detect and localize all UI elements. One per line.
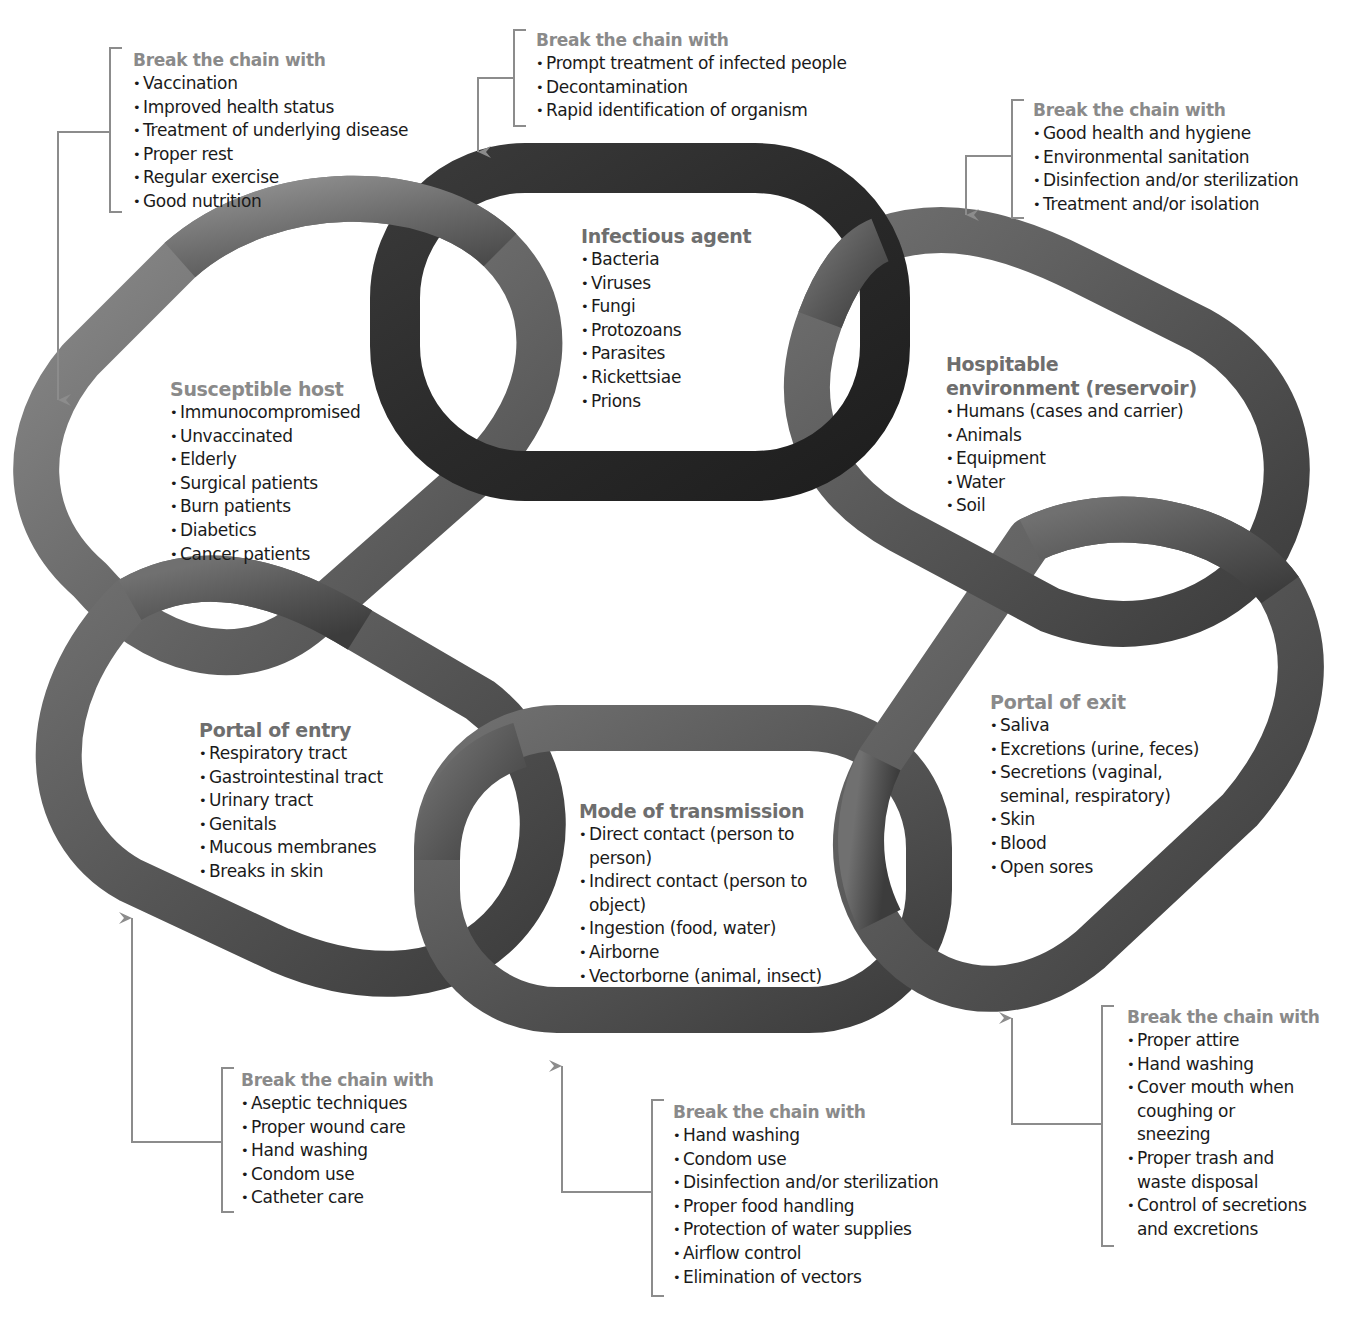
list-item: Good health and hygiene — [1033, 122, 1299, 146]
bracket-susceptible-host — [110, 48, 122, 212]
portal-of-exit-block: Portal of exit Saliva Excretions (urine,… — [990, 690, 1199, 879]
break-list: Prompt treatment of infected people Deco… — [536, 52, 847, 123]
list-item: Direct contact (person to — [579, 823, 822, 847]
portal-of-exit-title: Portal of exit — [990, 690, 1199, 714]
break-title: Break the chain with — [1033, 98, 1299, 122]
list-item: Ingestion (food, water) — [579, 917, 822, 941]
list-item: Protection of water supplies — [673, 1218, 939, 1242]
list-item: Proper wound care — [241, 1116, 434, 1140]
mode-of-transmission-list: Direct contact (person to person) Indire… — [579, 823, 822, 988]
list-item: Open sores — [990, 856, 1199, 880]
list-item: Equipment — [946, 447, 1197, 471]
break-portal-of-exit-callout: Break the chain with Proper attire Hand … — [1127, 1005, 1320, 1241]
break-mode-of-transmission-callout: Break the chain with Hand washing Condom… — [673, 1100, 939, 1289]
list-item: Parasites — [581, 342, 751, 366]
list-item: Airflow control — [673, 1242, 939, 1266]
list-item: Proper rest — [133, 143, 408, 167]
break-list: Proper attire Hand washing Cover mouth w… — [1127, 1029, 1320, 1241]
list-item: Secretions (vaginal, — [990, 761, 1199, 785]
list-item: Animals — [946, 424, 1197, 448]
infectious-agent-block: Infectious agent Bacteria Viruses Fungi … — [581, 224, 751, 413]
list-item: Viruses — [581, 272, 751, 296]
list-item: Proper food handling — [673, 1195, 939, 1219]
break-portal-of-entry-callout: Break the chain with Aseptic techniques … — [241, 1068, 434, 1210]
break-title: Break the chain with — [241, 1068, 434, 1092]
arrow-portal-of-exit — [1012, 1018, 1102, 1124]
portal-of-exit-list: Saliva Excretions (urine, feces) Secreti… — [990, 714, 1199, 879]
arrow-reservoir — [966, 156, 1012, 215]
list-item: Treatment and/or isolation — [1033, 193, 1299, 217]
list-item-continuation: seminal, respiratory) — [990, 785, 1199, 809]
list-item: Regular exercise — [133, 166, 408, 190]
portal-of-entry-block: Portal of entry Respiratory tract Gastro… — [199, 718, 383, 884]
list-item: Skin — [990, 808, 1199, 832]
break-infectious-agent-callout: Break the chain with Prompt treatment of… — [536, 28, 847, 123]
list-item: Elderly — [170, 448, 361, 472]
break-title: Break the chain with — [133, 48, 408, 72]
reservoir-title-line2: environment (reservoir) — [946, 376, 1197, 400]
list-item: Hand washing — [1127, 1053, 1320, 1077]
list-item: Cover mouth when — [1127, 1076, 1320, 1100]
break-title: Break the chain with — [536, 28, 847, 52]
list-item: Treatment of underlying disease — [133, 119, 408, 143]
list-item: Immunocompromised — [170, 401, 361, 425]
list-item: Urinary tract — [199, 789, 383, 813]
list-item: Cancer patients — [170, 543, 361, 567]
list-item-continuation: object) — [579, 894, 822, 918]
list-item: Burn patients — [170, 495, 361, 519]
list-item: Airborne — [579, 941, 822, 965]
bracket-reservoir — [1012, 100, 1024, 218]
arrow-infectious-agent — [478, 78, 514, 152]
list-item: Humans (cases and carrier) — [946, 400, 1197, 424]
susceptible-host-list: Immunocompromised Unvaccinated Elderly S… — [170, 401, 361, 566]
list-item: Fungi — [581, 295, 751, 319]
mode-of-transmission-title: Mode of transmission — [579, 799, 822, 823]
list-item: Proper trash and — [1127, 1147, 1320, 1171]
break-title: Break the chain with — [673, 1100, 939, 1124]
list-item: Breaks in skin — [199, 860, 383, 884]
list-item: Protozoans — [581, 319, 751, 343]
list-item: Bacteria — [581, 248, 751, 272]
arrow-portal-of-entry — [132, 918, 222, 1142]
list-item: Saliva — [990, 714, 1199, 738]
reservoir-list: Humans (cases and carrier) Animals Equip… — [946, 400, 1197, 518]
portal-of-entry-list: Respiratory tract Gastrointestinal tract… — [199, 742, 383, 884]
break-reservoir-callout: Break the chain with Good health and hyg… — [1033, 98, 1299, 216]
list-item: Disinfection and/or sterilization — [673, 1171, 939, 1195]
list-item: Decontamination — [536, 76, 847, 100]
bracket-infectious-agent — [514, 30, 526, 126]
infectious-agent-title: Infectious agent — [581, 224, 751, 248]
portal-of-entry-title: Portal of entry — [199, 718, 383, 742]
list-item: Environmental sanitation — [1033, 146, 1299, 170]
list-item: Excretions (urine, feces) — [990, 738, 1199, 762]
bracket-portal-of-entry — [222, 1068, 234, 1212]
arrow-mode-of-transmission — [562, 1066, 652, 1192]
list-item: Water — [946, 471, 1197, 495]
list-item-continuation: waste disposal — [1127, 1171, 1320, 1195]
list-item: Proper attire — [1127, 1029, 1320, 1053]
list-item-continuation: coughing or — [1127, 1100, 1320, 1124]
list-item: Disinfection and/or sterilization — [1033, 169, 1299, 193]
reservoir-block: Hospitable environment (reservoir) Human… — [946, 352, 1197, 518]
list-item: Gastrointestinal tract — [199, 766, 383, 790]
break-susceptible-host-callout: Break the chain with Vaccination Improve… — [133, 48, 408, 214]
list-item: Genitals — [199, 813, 383, 837]
list-item: Indirect contact (person to — [579, 870, 822, 894]
list-item: Good nutrition — [133, 190, 408, 214]
list-item: Unvaccinated — [170, 425, 361, 449]
list-item-continuation: person) — [579, 847, 822, 871]
list-item: Condom use — [241, 1163, 434, 1187]
break-list: Vaccination Improved health status Treat… — [133, 72, 408, 214]
mode-of-transmission-block: Mode of transmission Direct contact (per… — [579, 799, 822, 988]
list-item: Blood — [990, 832, 1199, 856]
break-list: Good health and hygiene Environmental sa… — [1033, 122, 1299, 216]
list-item: Respiratory tract — [199, 742, 383, 766]
list-item: Control of secretions — [1127, 1194, 1320, 1218]
list-item: Prompt treatment of infected people — [536, 52, 847, 76]
break-list: Hand washing Condom use Disinfection and… — [673, 1124, 939, 1289]
bracket-portal-of-exit — [1102, 1006, 1114, 1246]
list-item: Vaccination — [133, 72, 408, 96]
bracket-mode-of-transmission — [652, 1100, 664, 1296]
list-item: Surgical patients — [170, 472, 361, 496]
list-item: Diabetics — [170, 519, 361, 543]
